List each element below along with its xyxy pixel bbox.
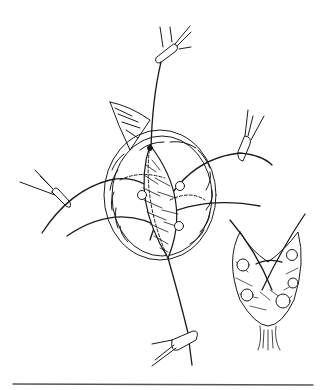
left-clamp-icon [20, 170, 71, 207]
surgical-illustration [0, 0, 324, 390]
tissue-mass [104, 102, 216, 260]
divider-rule [13, 384, 313, 385]
top-clamp-icon [156, 26, 192, 63]
cross-section-inset [230, 214, 305, 350]
bottom-clamp-icon [152, 331, 197, 366]
